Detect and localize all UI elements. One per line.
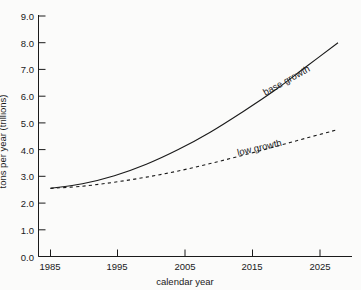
x-tick-label: 1995 <box>106 261 127 272</box>
x-tick-label: 1985 <box>39 261 60 272</box>
chart-figure: 9.0 8.0 7.0 6.0 5.0 4.0 3.0 2.0 1.0 0.0 … <box>0 0 361 290</box>
y-tick-marks <box>39 16 46 257</box>
series-line-base-growth <box>51 43 339 189</box>
x-tick-marks <box>51 250 321 257</box>
x-axis-title: calendar year <box>156 276 214 287</box>
y-tick-label: 8.0 <box>2 38 34 49</box>
y-axis-title: tons per year (trillions) <box>0 95 8 189</box>
y-tick-label: 2.0 <box>2 198 34 209</box>
series-line-low-growth <box>51 130 339 189</box>
x-tick-label: 2025 <box>309 261 330 272</box>
y-tick-label: 7.0 <box>2 64 34 75</box>
y-tick-label: 1.0 <box>2 225 34 236</box>
y-tick-label: 9.0 <box>2 11 34 22</box>
plot-canvas <box>0 0 361 290</box>
x-tick-label: 2005 <box>174 261 195 272</box>
y-tick-label: 0.0 <box>2 252 34 263</box>
x-tick-label: 2015 <box>241 261 262 272</box>
